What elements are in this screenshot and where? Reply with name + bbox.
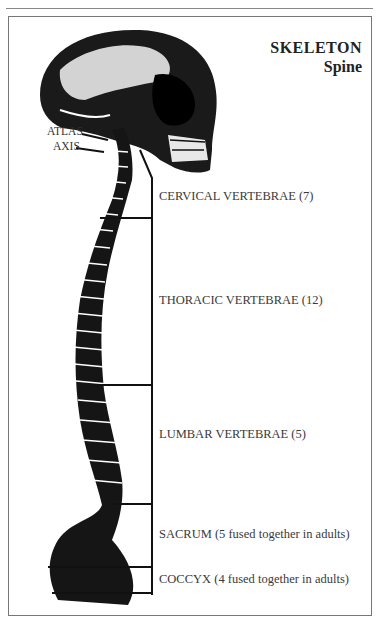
- title-main: SKELETON: [270, 38, 362, 57]
- label-sacrum: SACRUM (5 fused together in adults): [159, 527, 350, 542]
- label-coccyx: COCCYX (4 fused together in adults): [159, 572, 349, 587]
- label-cervical: CERVICAL VERTEBRAE (7): [159, 189, 314, 204]
- skull-spine-illustration: [0, 0, 386, 641]
- label-thoracic: THORACIC VERTEBRAE (12): [159, 293, 323, 308]
- label-lumbar: LUMBAR VERTEBRAE (5): [159, 427, 306, 442]
- figure-title: SKELETON Spine: [270, 38, 362, 76]
- title-sub: Spine: [270, 57, 362, 76]
- label-atlas: ATLAS: [47, 125, 83, 137]
- label-axis: AXIS: [53, 140, 80, 152]
